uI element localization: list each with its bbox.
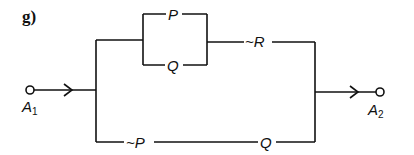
figure-tag: g) <box>22 7 36 26</box>
switch-not-p: ~P <box>126 134 145 151</box>
input-terminal: A1 <box>21 84 96 117</box>
input-terminal-label: A1 <box>21 98 38 117</box>
switching-circuit-diagram: g) A1 P Q ~R ~P Q A2 <box>0 0 414 155</box>
lower-path: ~P Q <box>96 133 315 151</box>
switch-p-upper: P <box>168 6 178 23</box>
terminal-circle-icon <box>376 88 384 96</box>
upper-path: P Q ~R <box>96 5 315 74</box>
switch-q-lower: Q <box>260 134 272 151</box>
terminal-circle-icon <box>26 86 34 94</box>
switch-q-upper: Q <box>167 57 179 74</box>
output-terminal-label: A2 <box>367 101 384 120</box>
output-terminal: A2 <box>315 86 384 120</box>
switch-not-r: ~R <box>245 33 265 50</box>
